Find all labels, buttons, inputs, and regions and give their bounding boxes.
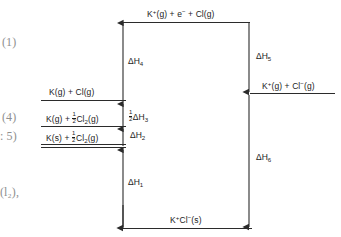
enthalpy-label-dH1: ΔH1 <box>128 178 143 188</box>
level-line-k-gas-cl-gas <box>41 100 126 101</box>
level-line-k-gas-half-cl2 <box>41 126 126 127</box>
level-label-top: K+(g) + e− + Cl(g) <box>147 9 215 18</box>
enthalpy-label-dH5: ΔH5 <box>256 52 271 62</box>
level-line-top <box>119 22 250 23</box>
level-label-k-gas-cl-gas: K(g) + Cl(g) <box>49 88 94 97</box>
level-label-k-gas-half-cl2: K(g) + 12Cl2(g) <box>46 112 99 125</box>
margin-note-4: (4) <box>2 111 16 123</box>
level-line-k-solid-half-cl2-lower <box>41 147 126 148</box>
margin-note-5: : 5) <box>0 130 17 142</box>
margin-note-l2: (l₂), <box>0 186 19 198</box>
born-haber-diagram: (1) (4) : 5) (l₂), K+(g) + e− + Cl(g) K(… <box>0 0 341 237</box>
level-line-bottom <box>120 228 252 229</box>
margin-note-1: (1) <box>2 36 16 48</box>
level-label-ions-gas: K+(g) + Cl−(g) <box>262 81 315 90</box>
enthalpy-label-dH4: ΔH4 <box>128 57 143 67</box>
level-line-ions-gas <box>250 93 335 94</box>
enthalpy-label-dH6: ΔH6 <box>256 153 271 163</box>
level-line-k-solid-half-cl2-upper <box>41 144 126 145</box>
enthalpy-label-dH3: 12ΔH3 <box>129 110 148 123</box>
level-label-k-solid-half-cl2: K(s) + 12Cl2(g) <box>46 131 98 144</box>
enthalpy-label-dH2: ΔH2 <box>130 131 145 141</box>
level-label-bottom: K+Cl−(s) <box>170 215 202 224</box>
